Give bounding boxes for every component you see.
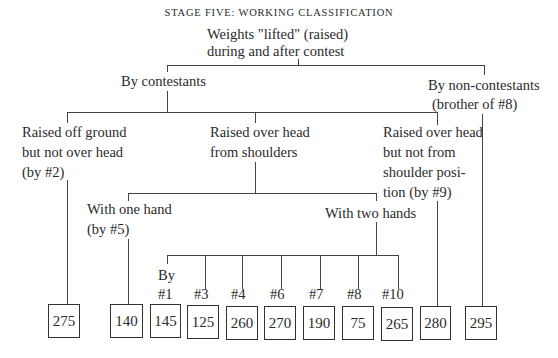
label-contestant-7: #7 [309, 286, 324, 303]
node-not-from-shoulders-line4: tion (by #9) [383, 182, 451, 202]
node-off-ground-line1: Raised off ground [22, 122, 126, 142]
weight-box-190: 190 [303, 306, 335, 340]
weight-box-270: 270 [264, 306, 296, 340]
node-one-hand-line2: (by #5) [87, 219, 129, 239]
node-not-from-shoulders-line2: but not from [383, 142, 456, 162]
weight-box-265: 265 [381, 307, 413, 341]
node-off-ground-line3: (by #2) [22, 162, 64, 182]
connector-two-hands [376, 193, 377, 201]
weight-box-295: 295 [465, 306, 497, 340]
connector-non-contestants [484, 65, 485, 75]
connector-contestants-down [167, 91, 168, 112]
node-by-non-contestants-line2: (brother of #8) [432, 94, 517, 114]
label-contestant-4: #4 [231, 286, 246, 303]
connector-two-hands-down [376, 222, 377, 255]
node-not-from-shoulders-line3: shoulder posi- [383, 162, 466, 182]
node-one-hand-line1: With one hand [87, 199, 172, 219]
weight-box-260: 260 [226, 306, 258, 340]
label-contestant-8: #8 [347, 286, 362, 303]
connector-contestant-bar [167, 255, 399, 256]
node-by-contestants: By contestants [121, 71, 206, 91]
node-off-ground-line2: but not over head [22, 142, 123, 162]
connector-c6 [281, 255, 282, 289]
label-by: By [158, 267, 175, 284]
connector-c1 [167, 255, 168, 264]
node-over-head-shoulders-line1: Raised over head [210, 122, 310, 142]
weight-box-145: 145 [150, 304, 181, 338]
label-contestant-6: #6 [270, 286, 285, 303]
weight-box-280: 280 [420, 306, 451, 340]
node-over-head-shoulders-line2: from shoulders [210, 142, 297, 162]
connector-to-275 [67, 180, 68, 304]
node-two-hands: With two hands [325, 203, 416, 223]
root-node-line2: during and after contest [207, 41, 344, 61]
connector-c8 [358, 255, 359, 289]
connector-to-140 [128, 239, 129, 304]
label-contestant-10: #10 [382, 286, 404, 303]
label-contestant-3: #3 [194, 286, 209, 303]
weight-box-75: 75 [342, 306, 374, 340]
weight-box-125: 125 [187, 305, 219, 339]
node-not-from-shoulders-line1: Raised over head [383, 122, 483, 142]
connector-contestants-bar [67, 112, 438, 113]
connector-c4 [242, 255, 243, 289]
connector-c3 [205, 255, 206, 289]
node-by-non-contestants-line1: By non-contestants [428, 75, 540, 95]
diagram-title: STAGE FIVE: WORKING CLASSIFICATION [0, 7, 558, 18]
connector-hands-bar [128, 193, 377, 194]
weight-box-275: 275 [48, 304, 80, 338]
connector-to-295 [482, 114, 483, 306]
connector-root-bar [167, 65, 484, 66]
connector-to-280 [437, 201, 438, 306]
weight-box-140: 140 [110, 304, 143, 338]
connector-c7 [320, 255, 321, 289]
connector-c10 [398, 255, 399, 289]
connector-shoulders-down [255, 162, 256, 193]
label-contestant-1: #1 [158, 286, 173, 303]
